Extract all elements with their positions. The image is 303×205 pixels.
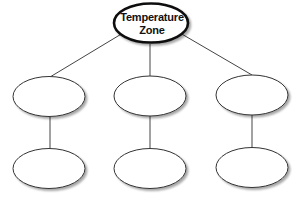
root-label-line2: Zone xyxy=(139,24,164,37)
branch-2-subnode xyxy=(114,149,186,189)
branch-1-subnode xyxy=(13,149,85,189)
root-node-label: Temperature Zone xyxy=(113,6,191,42)
branch-1-node xyxy=(13,77,85,117)
branch-3-node xyxy=(216,75,288,115)
branch-2-node xyxy=(114,76,186,116)
root-label-line1: Temperature xyxy=(120,11,184,24)
branch-3-subnode xyxy=(216,148,288,188)
